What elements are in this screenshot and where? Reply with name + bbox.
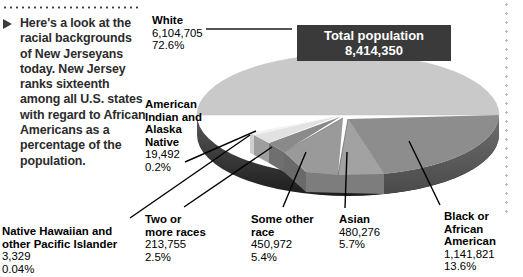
dotted-divider-top <box>2 6 140 9</box>
triangle-right-icon <box>3 19 12 29</box>
callout-native-hawaiian: Native Hawaiian and other Pacific Island… <box>2 225 142 275</box>
callout-asian-percent: 5.7% <box>339 238 409 251</box>
total-population-title: Total population <box>324 28 424 43</box>
callout-american-indian-name: American Indian and Alaska Native <box>145 98 207 148</box>
callout-black-african-american-percent: 13.6% <box>444 260 506 273</box>
callout-black-african-american-name: Black or African American <box>444 210 506 248</box>
callout-american-indian: American Indian and Alaska Native 19,492… <box>145 98 207 174</box>
callout-two-or-more: Two or more races 213,755 2.5% <box>145 213 207 263</box>
callout-asian: Asian 480,276 5.7% <box>339 213 409 251</box>
callout-some-other-race: Some other race 450,972 5.4% <box>251 213 326 263</box>
callout-white-name: White <box>152 14 222 27</box>
callout-some-other-race-name: Some other race <box>251 213 326 238</box>
callout-white: White 6,104,705 72.6% <box>152 14 222 52</box>
callout-two-or-more-name: Two or more races <box>145 213 207 238</box>
callout-two-or-more-value: 213,755 <box>145 238 207 251</box>
callout-asian-name: Asian <box>339 213 409 226</box>
callout-some-other-race-percent: 5.4% <box>251 251 326 264</box>
total-population-badge: Total population 8,414,350 <box>297 25 451 61</box>
callout-american-indian-value: 19,492 <box>145 148 207 161</box>
pie-chart: Total population 8,414,350 <box>188 12 508 202</box>
callout-white-percent: 72.6% <box>152 39 222 52</box>
pie-rim-nativehawaiian <box>250 133 254 155</box>
pie-rim-someother-front <box>306 172 384 194</box>
intro-paragraph: Here's a look at the racial backgrounds … <box>20 16 146 169</box>
callout-native-hawaiian-name: Native Hawaiian and other Pacific Island… <box>2 225 142 250</box>
callout-some-other-race-value: 450,972 <box>251 238 326 251</box>
callout-black-african-american: Black or African American 1,141,821 13.6… <box>444 210 506 273</box>
infographic-root: Here's a look at the racial backgrounds … <box>0 0 523 277</box>
pie-slice-white <box>197 54 499 115</box>
callout-white-value: 6,104,705 <box>152 27 222 40</box>
callout-native-hawaiian-value: 3,329 <box>2 250 142 263</box>
callout-asian-value: 480,276 <box>339 226 409 239</box>
callout-native-hawaiian-percent: 0.04% <box>2 263 142 276</box>
callout-two-or-more-percent: 2.5% <box>145 251 207 264</box>
callout-black-african-american-value: 1,141,821 <box>444 248 506 261</box>
callout-american-indian-percent: 0.2% <box>145 161 207 174</box>
total-population-value: 8,414,350 <box>345 43 403 58</box>
